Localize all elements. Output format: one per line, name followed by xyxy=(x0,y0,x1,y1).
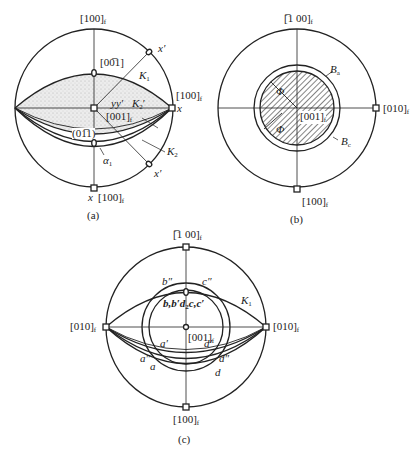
label-c-a2: a″ xyxy=(140,353,150,364)
pole-right-b xyxy=(373,105,379,111)
pole-right-a xyxy=(169,105,175,111)
label-a-yy: yy′ xyxy=(111,98,123,109)
label-b-center: [001]f xyxy=(300,111,326,124)
label-c-a: a xyxy=(150,361,156,372)
label-c-K1: K1 xyxy=(241,295,252,308)
label-b-phi1: Φ xyxy=(276,86,284,97)
label-c-right: [010]f xyxy=(273,321,299,334)
label-a-K2: K2 xyxy=(167,146,178,159)
caption-a: (a) xyxy=(87,210,99,221)
pole-00-1 xyxy=(92,70,97,77)
label-b-Ba: Ba xyxy=(330,64,340,77)
pole-top-c xyxy=(183,244,189,250)
pole-bottom-b xyxy=(294,186,300,192)
panel-a xyxy=(15,29,175,191)
label-c-d2: d″ xyxy=(219,353,229,364)
label-a-top: [100]f xyxy=(80,13,106,26)
label-c-bottom: [100]f xyxy=(173,414,199,427)
panel-b xyxy=(218,29,379,192)
label-c-c2: c″ xyxy=(202,276,211,287)
label-a-bottom: [100]f xyxy=(98,192,124,205)
pole-alpha1 xyxy=(92,140,97,147)
panel-c xyxy=(103,244,269,410)
caption-c: (c) xyxy=(178,434,190,445)
label-c-d: d xyxy=(215,367,221,378)
label-a-center: [001]f xyxy=(106,111,132,124)
label-a-right-x: x xyxy=(177,103,182,114)
label-b-top: [̅1 00]f xyxy=(284,13,313,26)
label-a-alpha: α1 xyxy=(103,155,112,168)
label-a-K2prime: K2′ xyxy=(132,98,145,111)
label-c-a1: a′ xyxy=(160,338,168,349)
pole-upper-c xyxy=(184,289,189,296)
label-a-K1: K1 xyxy=(139,70,150,83)
label-a-xprime-bottom: x′ xyxy=(154,168,161,179)
pole-left-c xyxy=(103,324,109,330)
label-a-00-1: [00̅1] xyxy=(100,57,124,68)
label-c-left: [010]f xyxy=(70,321,96,334)
label-b-phi2: Φ xyxy=(276,124,284,135)
label-c-d1: d′ xyxy=(204,338,212,349)
label-a-plane: (01̅1) xyxy=(72,128,95,139)
label-b-right: [010]f xyxy=(383,103,409,116)
label-c-b2: b″ xyxy=(162,276,172,287)
pole-center-a xyxy=(91,105,97,111)
pole-right-c xyxy=(263,324,269,330)
label-b-Bc: Bc xyxy=(341,136,351,149)
label-a-bottom-x: x xyxy=(88,192,93,203)
label-c-mid: b,b′d2c,c′ xyxy=(163,298,204,311)
label-a-xprime-top: x′ xyxy=(158,43,165,54)
pole-center-c xyxy=(184,325,189,330)
pole-bottom-c xyxy=(183,404,189,410)
stereographic-projections xyxy=(0,0,418,453)
label-c-top: [̅1 00]f xyxy=(173,229,202,242)
caption-b: (b) xyxy=(290,214,303,225)
label-b-bottom: [100]f xyxy=(302,196,328,209)
